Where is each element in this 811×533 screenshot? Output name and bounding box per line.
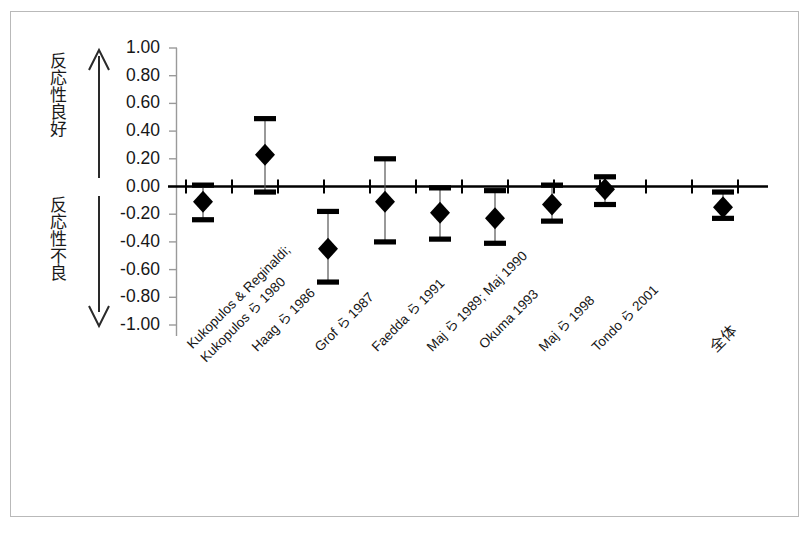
y-axis-tick-label: 0.00 <box>98 176 160 197</box>
error-bar-cap-upper <box>541 183 563 188</box>
effect-size-marker <box>713 196 733 218</box>
effect-size-marker <box>318 238 338 260</box>
chart-plot-area: 反応性良好 反応性不良 1.000.800.600.400.200.00-0.2… <box>0 0 811 533</box>
error-bar-cap-lower <box>541 219 563 224</box>
effect-size-marker <box>193 191 213 213</box>
y-axis-tick-label: 0.40 <box>98 120 160 141</box>
y-axis-tick-label: 0.20 <box>98 148 160 169</box>
error-bar-cap-lower <box>192 217 214 222</box>
error-bar-cap-upper <box>374 156 396 161</box>
y-axis-tick-label: -0.80 <box>98 286 160 307</box>
error-bar-cap-lower <box>317 279 339 284</box>
effect-size-marker <box>255 144 275 166</box>
error-bar-cap-lower <box>254 189 276 194</box>
error-bar-cap-lower <box>594 202 616 207</box>
error-bar-cap-upper <box>192 183 214 188</box>
data-point-group <box>541 183 563 224</box>
effect-size-marker <box>542 194 562 216</box>
data-point-group <box>374 156 396 244</box>
effect-size-marker <box>595 178 615 200</box>
y-axis-tick-label: -1.00 <box>98 314 160 335</box>
y-axis-tick-label: -0.20 <box>98 203 160 224</box>
data-point-group <box>429 185 451 241</box>
data-point-group <box>254 116 276 195</box>
error-bar-cap-lower <box>374 239 396 244</box>
error-bar-cap-upper <box>317 209 339 214</box>
y-axis-tick-label: 1.00 <box>98 37 160 58</box>
error-bar-cap-upper <box>429 185 451 190</box>
error-bar-cap-lower <box>429 237 451 242</box>
error-bar-cap-lower <box>484 241 506 246</box>
error-bar-cap-upper <box>712 189 734 194</box>
y-axis-tick-label: -0.40 <box>98 231 160 252</box>
error-bar-cap-upper <box>254 116 276 121</box>
effect-size-marker <box>485 207 505 229</box>
data-point-group <box>192 183 214 223</box>
data-point-group <box>712 189 734 221</box>
data-point-group <box>484 188 506 246</box>
y-axis-tick-label: 0.60 <box>98 92 160 113</box>
error-bar-cap-upper <box>484 188 506 193</box>
figure-canvas: 反応性良好 反応性不良 1.000.800.600.400.200.00-0.2… <box>0 0 811 533</box>
effect-size-marker <box>430 202 450 224</box>
y-axis-tick-label: -0.60 <box>98 259 160 280</box>
y-axis-tick-label: 0.80 <box>98 65 160 86</box>
data-point-group <box>594 174 616 207</box>
effect-size-marker <box>375 191 395 213</box>
data-point-group <box>317 209 339 285</box>
